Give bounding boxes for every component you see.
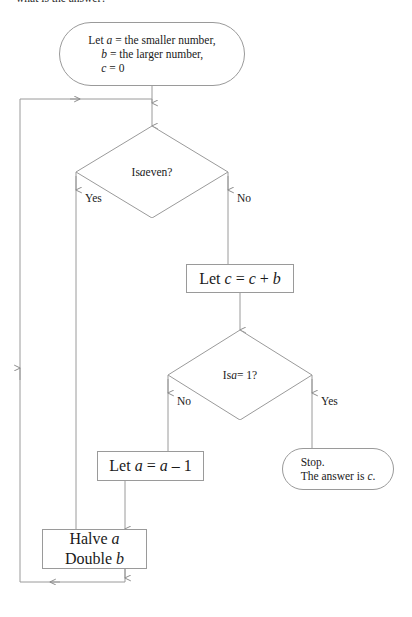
stop-text-block: Stop. The answer is c.: [301, 455, 376, 484]
start-text-block: Let a = the smaller number, b = the larg…: [88, 33, 215, 75]
decision-even-outline: [76, 126, 228, 218]
node-process-decrement-a: Let a = a – 1: [97, 451, 204, 481]
add-b-label: Let c = c + b: [199, 269, 281, 289]
connector-layer: [0, 0, 412, 617]
stop-line-2: The answer is c.: [301, 469, 376, 483]
branch-label-one-yes: Yes: [321, 395, 338, 407]
start-line-3: c = 0: [88, 61, 215, 75]
start-line-2: b = the larger number,: [88, 47, 215, 61]
halve-double-line-2: Double b: [65, 549, 124, 569]
node-process-add-b: Let c = c + b: [186, 264, 294, 293]
node-stop-terminator: Stop. The answer is c.: [282, 448, 394, 490]
wire-halve-to-loopback: [20, 569, 125, 582]
start-line-1: Let a = the smaller number,: [88, 33, 215, 47]
branch-label-even-no: No: [237, 192, 251, 204]
flowchart-canvas: what is the answer?: [0, 0, 412, 617]
stop-line-1: Stop.: [301, 455, 376, 469]
decrement-a-label: Let a = a – 1: [109, 456, 191, 476]
branch-label-even-yes: Yes: [85, 192, 102, 204]
node-process-halve-double: Halve a Double b: [42, 529, 147, 569]
branch-label-one-no: No: [177, 395, 191, 407]
halve-double-line-1: Halve a: [69, 529, 119, 549]
node-start-terminator: Let a = the smaller number, b = the larg…: [59, 22, 245, 86]
node-decision-is-a-even: Is a even?: [76, 126, 228, 218]
